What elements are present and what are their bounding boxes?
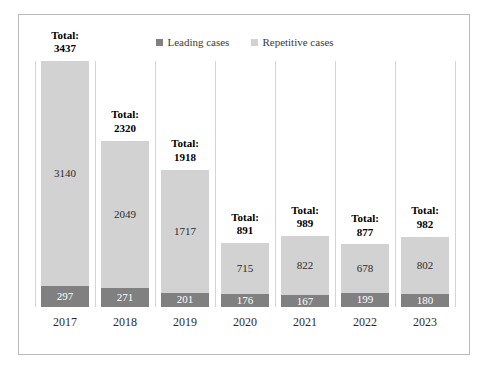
x-tick-2020: 2020 — [215, 315, 275, 330]
bar-total-prefix: Total: — [411, 204, 439, 218]
bar-segment-value: 2049 — [114, 209, 136, 220]
bar-total-label: Total:1918 — [171, 137, 199, 165]
bar-segment-value: 180 — [417, 295, 434, 306]
bar-series-container: Total:34373140297Total:23202049271Total:… — [35, 61, 455, 307]
bar-group-2022: Total:877678199 — [335, 61, 395, 307]
bar-total-label: Total:2320 — [111, 108, 139, 136]
chart-legend: Leading cases Repetitive cases — [19, 37, 471, 48]
bar-total-label: Total:989 — [291, 204, 319, 232]
x-tick-2018: 2018 — [95, 315, 155, 330]
bar-total-label: Total:3437 — [51, 29, 79, 57]
x-tick-2022: 2022 — [335, 315, 395, 330]
bar-segment-value: 201 — [177, 294, 194, 305]
bar-total-label: Total:982 — [411, 204, 439, 232]
bar-group-2019: Total:19181717201 — [155, 61, 215, 307]
stacked-bar[interactable]: Total:891715176 — [221, 243, 269, 307]
bar-segment-value: 1717 — [174, 226, 196, 237]
gridline — [455, 61, 456, 307]
bar-total-value: 982 — [411, 218, 439, 232]
bar-segment-repetitive[interactable]: 715 — [221, 243, 269, 294]
plot-area: Total:34373140297Total:23202049271Total:… — [35, 61, 455, 307]
legend-swatch-leading-cases — [156, 39, 163, 46]
bar-segment-leading[interactable]: 176 — [221, 294, 269, 307]
bar-total-prefix: Total: — [171, 137, 199, 151]
bar-segment-value: 3140 — [54, 168, 76, 179]
bar-group-2023: Total:982802180 — [395, 61, 455, 307]
legend-swatch-repetitive-cases — [251, 39, 258, 46]
bar-segment-repetitive[interactable]: 2049 — [101, 141, 149, 288]
bar-total-label: Total:891 — [231, 211, 259, 239]
bar-total-value: 877 — [351, 226, 379, 240]
bar-total-value: 1918 — [171, 151, 199, 165]
stacked-bar[interactable]: Total:19181717201 — [161, 170, 209, 307]
x-tick-2023: 2023 — [395, 315, 455, 330]
bar-segment-leading[interactable]: 180 — [401, 294, 449, 307]
stacked-bar[interactable]: Total:34373140297 — [41, 61, 89, 307]
bar-total-prefix: Total: — [51, 29, 79, 43]
legend-item-repetitive-cases[interactable]: Repetitive cases — [251, 37, 333, 48]
x-axis-tick-labels: 2017201820192020202120222023 — [35, 315, 455, 330]
legend-item-leading-cases[interactable]: Leading cases — [156, 37, 229, 48]
bar-segment-value: 678 — [357, 263, 374, 274]
bar-segment-leading[interactable]: 199 — [341, 293, 389, 307]
bar-segment-leading[interactable]: 201 — [161, 293, 209, 307]
bar-total-prefix: Total: — [351, 212, 379, 226]
legend-label-repetitive-cases: Repetitive cases — [262, 37, 333, 48]
bar-segment-leading[interactable]: 167 — [281, 295, 329, 307]
chart-frame: Leading cases Repetitive cases Total:343… — [18, 14, 470, 355]
bar-segment-value: 297 — [57, 291, 74, 302]
bar-segment-value: 822 — [297, 260, 314, 271]
stacked-bar[interactable]: Total:877678199 — [341, 244, 389, 307]
bar-total-prefix: Total: — [111, 108, 139, 122]
bar-segment-repetitive[interactable]: 1717 — [161, 170, 209, 293]
bar-group-2021: Total:989822167 — [275, 61, 335, 307]
bar-total-value: 891 — [231, 224, 259, 238]
bar-total-value: 2320 — [111, 122, 139, 136]
bar-segment-leading[interactable]: 297 — [41, 286, 89, 307]
bar-segment-value: 199 — [357, 294, 374, 305]
x-tick-2021: 2021 — [275, 315, 335, 330]
bar-segment-repetitive[interactable]: 678 — [341, 244, 389, 293]
bar-segment-value: 715 — [237, 263, 254, 274]
x-tick-2019: 2019 — [155, 315, 215, 330]
bar-group-2020: Total:891715176 — [215, 61, 275, 307]
bar-total-prefix: Total: — [231, 211, 259, 225]
bar-segment-value: 802 — [417, 260, 434, 271]
stacked-bar[interactable]: Total:982802180 — [401, 237, 449, 307]
bar-segment-repetitive[interactable]: 3140 — [41, 61, 89, 286]
bar-total-prefix: Total: — [291, 204, 319, 218]
x-tick-2017: 2017 — [35, 315, 95, 330]
bar-group-2017: Total:34373140297 — [35, 61, 95, 307]
bar-total-label: Total:877 — [351, 212, 379, 240]
bar-segment-repetitive[interactable]: 802 — [401, 237, 449, 294]
bar-segment-repetitive[interactable]: 822 — [281, 236, 329, 295]
bar-segment-value: 271 — [117, 292, 134, 303]
bar-segment-leading[interactable]: 271 — [101, 288, 149, 307]
legend-label-leading-cases: Leading cases — [167, 37, 229, 48]
bar-segment-value: 167 — [297, 296, 314, 307]
stacked-bar[interactable]: Total:989822167 — [281, 236, 329, 307]
stacked-bar[interactable]: Total:23202049271 — [101, 141, 149, 307]
bar-total-value: 989 — [291, 217, 319, 231]
bar-total-value: 3437 — [51, 42, 79, 56]
bar-segment-value: 176 — [237, 295, 254, 306]
bar-group-2018: Total:23202049271 — [95, 61, 155, 307]
